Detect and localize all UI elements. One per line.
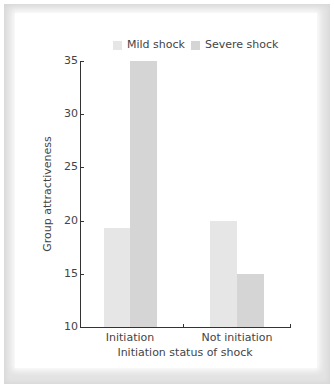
y-axis-line [80,61,81,327]
legend-label-severe-shock: Severe shock [205,39,278,51]
x-tick-end [290,324,291,328]
bar-initiation-mild [104,228,130,327]
bar-not-initiation-severe [237,274,264,327]
legend-swatch-mild-shock [113,41,122,50]
bar-chart: Mild shock Severe shock 35 30 25 20 15 1… [0,0,334,388]
y-tick-20 [80,221,84,222]
bar-initiation-severe [130,61,157,327]
y-tick-25 [80,167,84,168]
y-tick-label-25: 25 [54,161,78,173]
y-tick-15 [80,274,84,275]
y-axis-title: Group attractiveness [42,134,54,254]
y-tick-label-20: 20 [54,215,78,227]
y-tick-label-35: 35 [54,55,78,67]
legend-swatch-severe-shock [191,41,200,50]
x-axis-line [80,327,291,328]
x-tick-label-initiation: Initiation [80,332,180,344]
y-tick-label-10: 10 [54,321,78,333]
legend-label-mild-shock: Mild shock [127,39,185,51]
y-tick-label-30: 30 [54,108,78,120]
bar-not-initiation-mild [210,221,237,327]
x-tick-mid [183,324,184,328]
x-axis-title: Initiation status of shock [85,347,285,359]
x-tick-label-not-initiation: Not initiation [187,332,287,344]
y-tick-label-15: 15 [54,268,78,280]
y-tick-30 [80,114,84,115]
y-tick-35 [80,61,84,62]
